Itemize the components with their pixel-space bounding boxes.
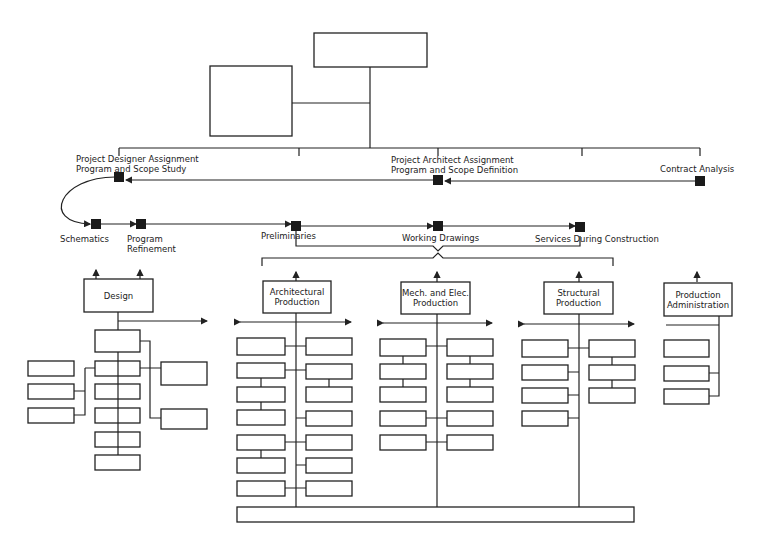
org-unit-box (95, 330, 140, 352)
org-unit-box (28, 384, 74, 399)
admin-label: ProductionAdministration (664, 290, 732, 310)
org-unit-box (306, 458, 352, 473)
design-label: Design (84, 291, 153, 301)
org-unit-box (522, 365, 568, 380)
org-unit-box (447, 387, 493, 402)
org-unit-box (664, 340, 709, 357)
org-unit-box (306, 411, 352, 426)
mech-elec-label: Mech. and Elec.Production (401, 288, 470, 308)
org-unit-box (237, 507, 634, 522)
milestone-node (433, 175, 443, 185)
org-unit-box (589, 388, 635, 403)
org-unit-box (237, 363, 285, 378)
org-unit-box (306, 338, 352, 355)
org-unit-box (380, 364, 426, 379)
milestone-node (91, 219, 101, 229)
org-unit-box (28, 361, 74, 376)
org-unit-box (447, 435, 493, 450)
org-unit-box (380, 387, 426, 402)
milestone-node (136, 219, 146, 229)
org-unit-box (161, 409, 207, 429)
org-unit-box (447, 411, 493, 426)
org-unit-box (380, 435, 426, 450)
milestone-node (695, 176, 705, 186)
org-unit-box (522, 340, 568, 357)
org-unit-box (237, 338, 285, 355)
schematics-label: Schematics (60, 234, 109, 244)
preliminaries-label: Preliminaries (261, 231, 316, 241)
program-refinement-label: ProgramRefinement (127, 234, 176, 254)
architectural-label: ArchitecturalProduction (263, 287, 331, 307)
org-unit-box (589, 365, 635, 380)
org-unit-box (306, 481, 352, 496)
milestone-node (575, 222, 585, 232)
org-unit-box (447, 339, 493, 356)
services-during-construction-label: Services During Construction (535, 234, 659, 244)
org-unit-box (589, 340, 635, 357)
org-unit-box (447, 364, 493, 379)
org-unit-box (237, 387, 285, 402)
top-box (314, 33, 427, 67)
org-unit-box (237, 410, 285, 425)
milestone-node (291, 221, 301, 231)
org-unit-box (28, 408, 74, 423)
org-unit-box (664, 389, 709, 404)
project-architect-label: Project Architect AssignmentProgram and … (391, 155, 518, 175)
working-drawings-label: Working Drawings (402, 233, 479, 243)
org-unit-box (306, 435, 352, 450)
project-designer-label: Project Designer AssignmentProgram and S… (76, 154, 199, 174)
side-box (210, 66, 292, 136)
org-unit-box (306, 387, 352, 402)
org-unit-box (522, 411, 568, 426)
org-unit-box (664, 366, 709, 381)
diagram-canvas (0, 0, 772, 546)
org-unit-box (522, 388, 568, 403)
structural-label: StructuralProduction (544, 288, 613, 308)
contract-analysis-label: Contract Analysis (660, 164, 734, 174)
org-chart-diagram: Project Designer AssignmentProgram and S… (0, 0, 772, 546)
org-unit-box (95, 455, 140, 470)
milestone-node (433, 221, 443, 231)
org-unit-box (237, 458, 285, 473)
org-unit-box (380, 339, 426, 356)
org-unit-box (306, 364, 352, 379)
org-unit-box (380, 411, 426, 426)
org-unit-box (237, 481, 285, 496)
org-unit-box (161, 362, 207, 385)
org-unit-box (237, 435, 285, 450)
